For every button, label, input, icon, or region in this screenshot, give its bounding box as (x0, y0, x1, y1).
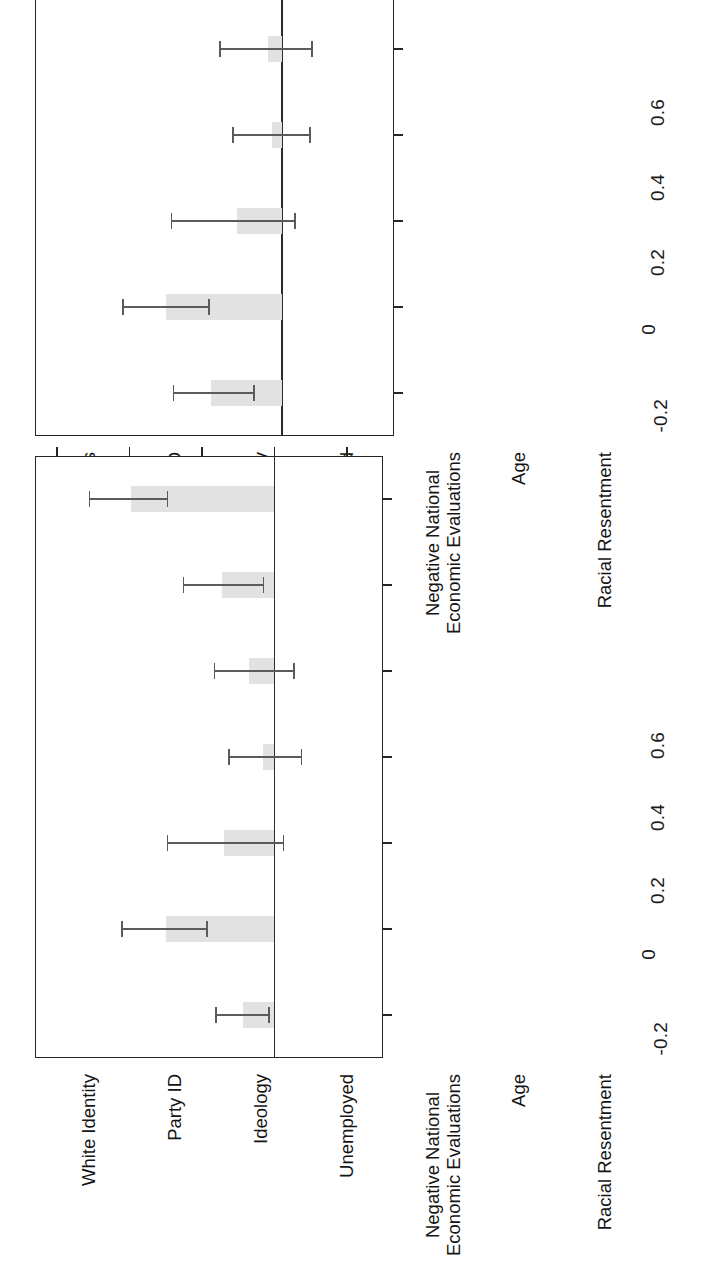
error-bar-stem (216, 1014, 269, 1016)
error-bar-stem (220, 48, 312, 50)
error-bar-cap-lower (283, 835, 285, 851)
category-tick (383, 842, 392, 844)
error-bar-cap-upper (173, 385, 175, 401)
category-label: Ideology (250, 1074, 271, 1144)
error-bar-stem (184, 584, 264, 586)
category-tick (394, 134, 403, 136)
category-tick (383, 498, 392, 500)
error-bar-stem (171, 220, 294, 222)
error-bar-stem (123, 306, 209, 308)
plot-frame-bottom (35, 456, 383, 1058)
error-bar-cap-upper (171, 213, 173, 229)
error-bar-cap-lower (167, 491, 169, 507)
rotated-plot-area-bottom (35, 456, 383, 1058)
value-axis-tick-label: 0 (638, 324, 660, 335)
value-axis-tick (274, 447, 276, 456)
error-bar-cap-upper (215, 1007, 217, 1023)
category-tick (394, 220, 403, 222)
category-label: Racial Resentment (594, 452, 615, 608)
error-bar-cap-upper (121, 921, 123, 937)
error-bar-cap-lower (301, 749, 303, 765)
category-tick (383, 584, 392, 586)
error-bar-cap-lower (263, 577, 265, 593)
chart-panel-bottom: White IdentityParty IDIdeologyUnemployed… (0, 648, 702, 1286)
error-bar-cap-upper (214, 663, 216, 679)
value-axis-tick-label: -0.2 (650, 1022, 672, 1056)
category-label: White Identity (78, 1074, 99, 1186)
error-bar-cap-upper (219, 41, 221, 57)
value-axis-tick-label: 0.6 (647, 99, 669, 126)
value-axis-tick-label: 0.2 (647, 877, 669, 904)
error-bar-cap-lower (208, 299, 210, 315)
value-axis-tick-label: 0.4 (647, 804, 669, 831)
rotated-plot-area-top (35, 0, 394, 436)
error-bar-cap-upper (228, 749, 230, 765)
error-bar-stem (233, 134, 310, 136)
value-axis-tick (56, 447, 58, 456)
error-bar-cap-lower (268, 1007, 270, 1023)
category-tick (383, 1014, 392, 1016)
plot-bottom (35, 456, 383, 1058)
error-bar-stem (122, 928, 207, 930)
value-axis-tick-label: 0.4 (647, 174, 669, 201)
error-bar-cap-upper (89, 491, 91, 507)
error-bar-cap-upper (232, 127, 234, 143)
category-label: Racial Resentment (594, 1074, 615, 1230)
category-label: Unemployed (336, 1074, 357, 1178)
plot-top (35, 0, 394, 436)
category-label: Age (508, 1074, 529, 1107)
error-bar-cap-lower (309, 127, 311, 143)
category-tick (383, 670, 392, 672)
plot-frame-top (35, 0, 394, 436)
error-bar-stem (214, 670, 294, 672)
error-bar-stem (89, 498, 167, 500)
error-bar-cap-lower (294, 213, 296, 229)
category-label: Negative National Economic Evaluations (422, 1074, 464, 1256)
category-label: Negative National Economic Evaluations (422, 452, 464, 634)
error-bar-cap-lower (206, 921, 208, 937)
category-tick (394, 306, 403, 308)
value-axis-tick (346, 447, 348, 456)
category-label: Age (508, 452, 529, 485)
value-axis-tick-label: 0 (638, 949, 660, 960)
category-tick (383, 756, 392, 758)
error-bar-cap-upper (167, 835, 169, 851)
error-bar-stem (173, 392, 253, 394)
category-label: Party ID (164, 1074, 185, 1141)
error-bar-cap-lower (253, 385, 255, 401)
error-bar-stem (229, 756, 302, 758)
error-bar-cap-lower (293, 663, 295, 679)
error-bar-cap-upper (183, 577, 185, 593)
category-tick (383, 928, 392, 930)
value-axis-tick (129, 447, 131, 456)
error-bar-cap-upper (122, 299, 124, 315)
value-axis-tick-label: 0.6 (647, 732, 669, 759)
value-axis-tick-label: 0.2 (647, 249, 669, 276)
error-bar-cap-lower (311, 41, 313, 57)
value-axis-tick (201, 447, 203, 456)
category-tick (394, 48, 403, 50)
error-bar-stem (167, 842, 283, 844)
category-tick (394, 392, 403, 394)
value-axis-tick-label: -0.2 (650, 399, 672, 433)
